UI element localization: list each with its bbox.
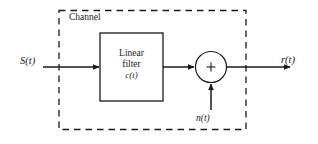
output-signal-label: r(t) [281,54,295,66]
linear-filter-block-label: Linear filter c(t) [100,48,163,80]
input-signal-label: S(t) [20,55,35,67]
channel-boundary-label: Channel [69,12,101,23]
channel-block-diagram: Channel S(t) r(t) n(t) Linear filter c(t… [0,0,318,144]
filter-label-line-1: Linear [100,48,163,59]
filter-label-line-2: filter [100,59,163,70]
filter-impulse-response-label: c(t) [100,70,163,80]
noise-input-label: n(t) [196,113,210,124]
